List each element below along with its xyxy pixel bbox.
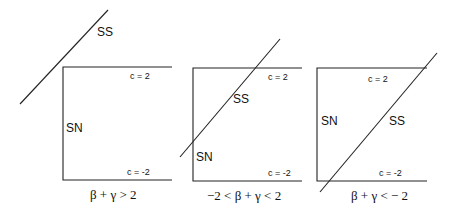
panel-2-ss-label: SS (233, 93, 249, 105)
panel-1-ss-curve (20, 10, 108, 104)
panel-2-box (193, 68, 302, 181)
panel-1-sn-label: SN (66, 122, 83, 134)
panel-1-ss-label: SS (97, 26, 113, 38)
panel-3-sn-label: SN (321, 115, 338, 127)
panel-1-condition: β + γ > 2 (90, 188, 137, 201)
panel-2-top-label: c = 2 (268, 73, 288, 82)
panel-1-bottom-label: c = -2 (127, 168, 150, 177)
panel-3-ss-label: SS (389, 115, 405, 127)
panel-3-condition: β + γ < − 2 (351, 189, 408, 202)
panel-2-ss-curve (180, 39, 280, 157)
panel-2-bottom-label: c = -2 (268, 169, 291, 178)
panel-3-bottom-label: c = -2 (379, 169, 402, 178)
panel-2-condition: −2 < β + γ < 2 (207, 189, 281, 202)
panel-2-sn-label: SN (196, 151, 213, 163)
panel-3-top-label: c = 2 (368, 75, 388, 84)
bifurcation-diagram: SS c = 2 SN c = -2 β + γ > 2 c = 2 SS SN… (0, 0, 453, 216)
panel-1-lines (20, 10, 172, 180)
panel-1-top-label: c = 2 (130, 72, 150, 81)
diagram-lines (0, 0, 453, 216)
